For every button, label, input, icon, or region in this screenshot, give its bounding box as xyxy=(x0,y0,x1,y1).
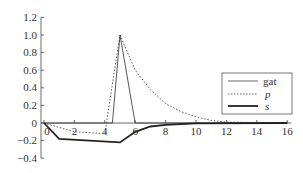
x-tick-label: 2 xyxy=(72,125,78,137)
x-tick-label: 10 xyxy=(191,125,203,137)
y-tick-label: 0.2 xyxy=(23,99,37,111)
x-tick-label: 14 xyxy=(251,125,263,137)
y-tick-label: −0.4 xyxy=(17,152,37,164)
legend: gat p s xyxy=(222,73,292,114)
y-tick-label: 0 xyxy=(32,117,38,129)
legend-box xyxy=(222,73,292,114)
legend-label-p: p xyxy=(264,88,271,100)
x-tick-label: 4 xyxy=(102,125,108,137)
y-axis: 1.21.00.80.60.40.20−0.2−0.4 xyxy=(17,11,44,164)
y-tick-label: 1.0 xyxy=(23,29,37,41)
x-tick-label: 16 xyxy=(282,125,294,137)
x-tick-label: 12 xyxy=(221,125,232,137)
legend-label-gat: gat xyxy=(263,75,276,87)
legend-label-s: s xyxy=(265,100,269,112)
y-tick-label: −0.2 xyxy=(17,134,37,146)
y-tick-label: 0.4 xyxy=(23,81,37,93)
x-tick-label: 8 xyxy=(163,125,169,137)
y-tick-label: 1.2 xyxy=(23,11,37,23)
y-tick-label: 0.6 xyxy=(23,64,37,76)
line-chart: 1.21.00.80.60.40.20−0.2−0.4 024681012141… xyxy=(0,0,303,173)
y-tick-label: 0.8 xyxy=(23,46,37,58)
